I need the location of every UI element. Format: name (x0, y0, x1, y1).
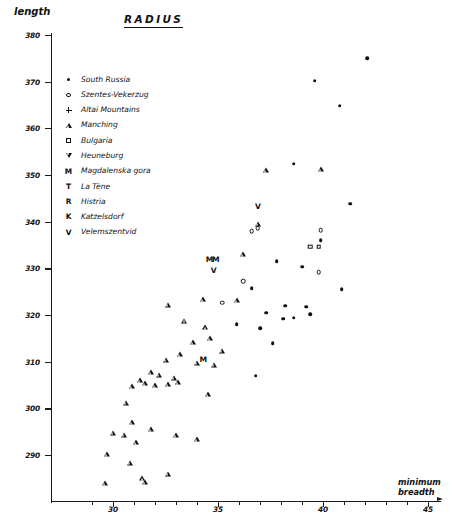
marker-dot-icon (300, 265, 304, 269)
marker-triangle-icon (255, 221, 261, 226)
marker-dot-icon (304, 305, 308, 309)
marker-triangle-icon (202, 325, 208, 330)
marker-triangle-icon (173, 433, 179, 438)
marker-dot-icon (292, 316, 296, 320)
marker-triangle-icon (152, 383, 158, 388)
data-point (340, 288, 344, 292)
data-point (133, 440, 139, 445)
data-point (281, 317, 285, 321)
data-point (129, 384, 135, 389)
data-point (254, 374, 258, 378)
marker-letter-m-icon: M (212, 256, 220, 264)
data-point (173, 433, 179, 438)
data-point: M (212, 256, 220, 264)
marker-dot-icon (258, 326, 262, 330)
marker-dot-icon (265, 311, 269, 315)
data-point (142, 381, 148, 386)
data-point (309, 312, 313, 316)
data-point (165, 382, 171, 387)
marker-triangle-icon (129, 384, 135, 389)
marker-triangle-icon (127, 460, 133, 465)
data-point (165, 302, 171, 307)
marker-dot-icon (340, 288, 344, 292)
marker-dot-icon (349, 202, 353, 206)
marker-letter-m-icon: M (200, 356, 208, 364)
data-point (121, 432, 127, 437)
marker-triangle-icon (123, 400, 129, 405)
marker-dot-icon (281, 317, 285, 321)
data-point (249, 229, 254, 234)
data-point (365, 57, 369, 61)
marker-triangle-icon (211, 362, 217, 367)
data-point (304, 305, 308, 309)
marker-triangle-icon (240, 252, 246, 257)
marker-dot-icon (235, 323, 239, 327)
marker-triangle-icon (156, 372, 162, 377)
data-point (313, 79, 317, 83)
marker-triangle-icon (190, 340, 196, 345)
marker-dot-icon (275, 260, 279, 264)
marker-triangle-icon (142, 480, 148, 485)
marker-circle-icon (317, 270, 322, 275)
data-point (319, 239, 323, 243)
data-point (142, 480, 148, 485)
data-point (250, 286, 254, 290)
marker-square-icon (317, 245, 322, 250)
marker-triangle-icon (234, 298, 240, 303)
data-point (194, 437, 200, 442)
data-point (200, 297, 206, 302)
data-point (104, 452, 110, 457)
data-point (177, 352, 183, 357)
data-point (129, 420, 135, 425)
data-point (123, 400, 129, 405)
data-point (308, 245, 313, 250)
marker-triangle-icon (263, 168, 269, 173)
marker-dot-icon (250, 286, 254, 290)
marker-triangle-icon (165, 302, 171, 307)
data-point (211, 362, 217, 367)
data-point: V (255, 203, 261, 211)
data-point (275, 260, 279, 264)
data-point (319, 228, 324, 233)
marker-triangle-icon (165, 382, 171, 387)
data-point (220, 301, 225, 306)
marker-dot-icon (319, 239, 323, 243)
data-point (165, 471, 171, 476)
marker-triangle-icon (194, 437, 200, 442)
data-point (202, 325, 208, 330)
data-point: V (211, 267, 217, 275)
marker-dot-icon (309, 312, 313, 316)
data-point (175, 380, 181, 385)
marker-dot-icon (292, 162, 296, 166)
data-point (207, 336, 213, 341)
marker-dot-icon (313, 79, 317, 83)
marker-dot-icon (283, 304, 287, 308)
marker-letter-v-icon: V (255, 203, 261, 211)
data-point (271, 341, 275, 345)
marker-triangle-icon (148, 370, 154, 375)
marker-dot-icon (338, 104, 342, 108)
marker-triangle-icon (181, 318, 187, 323)
marker-letter-v-icon: V (211, 267, 217, 275)
data-point (317, 245, 322, 250)
data-point (148, 426, 154, 431)
scatter-plot-figure: length RADIUS minimum breadth 2903003103… (0, 0, 455, 523)
marker-circle-icon (220, 301, 225, 306)
marker-triangle-icon (110, 430, 116, 435)
data-point (110, 430, 116, 435)
data-point (205, 392, 211, 397)
marker-triangle-icon (175, 380, 181, 385)
data-point (265, 311, 269, 315)
data-point (181, 318, 187, 323)
marker-circle-icon (249, 229, 254, 234)
marker-triangle-icon (133, 440, 139, 445)
marker-circle-icon (319, 228, 324, 233)
data-point (163, 357, 169, 362)
marker-triangle-icon (177, 352, 183, 357)
data-point (318, 167, 324, 172)
data-point (127, 460, 133, 465)
marker-triangle-icon (102, 481, 108, 486)
data-point (317, 270, 322, 275)
data-point (258, 326, 262, 330)
marker-triangle-icon (318, 167, 324, 172)
